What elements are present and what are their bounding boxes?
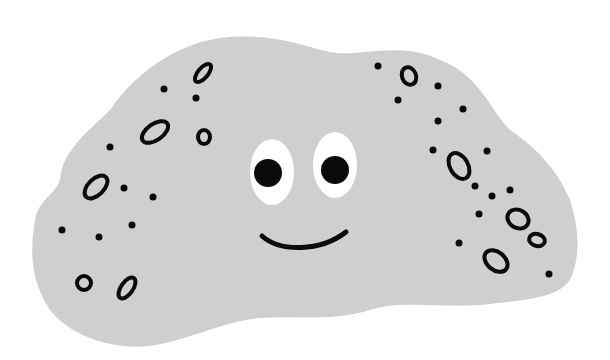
spot-dot [456,240,463,247]
rock-illustration [0,0,610,360]
spot-dot [546,271,553,278]
illustration-canvas: smiling gray rock [0,0,610,360]
spot-dot [150,194,157,201]
spot-dot [489,193,496,200]
spot-dot [472,183,479,190]
spot-dot [395,97,402,104]
left-eye-pupil [254,159,282,187]
spot-dot [484,148,491,155]
spot-dot [129,222,136,229]
spot-dot [121,185,128,192]
spot-dot [435,118,442,125]
spot-dot [161,86,168,93]
right-eye-pupil [321,156,349,184]
spot-dot [375,63,382,70]
spot-dot [460,106,467,113]
spot-dot [96,234,103,241]
spot-dot [107,144,114,151]
spot-dot [59,227,66,234]
spot-dot [193,95,200,102]
spot-dot [476,211,483,218]
spot-dot [430,147,437,154]
rock-body [32,36,577,346]
spot-dot [507,187,514,194]
spot-dot [435,83,442,90]
